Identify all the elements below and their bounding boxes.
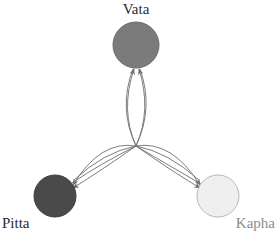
edge-vata-to-pitta xyxy=(73,69,136,188)
edge-vata-to-kapha xyxy=(136,69,200,188)
node-layer xyxy=(34,22,239,217)
edge-pitta-to-vata xyxy=(72,69,136,183)
node-kapha[interactable] xyxy=(197,175,239,217)
node-label-vata: Vata xyxy=(123,1,150,17)
node-label-pitta: Pitta xyxy=(2,215,30,231)
tridosha-diagram: Vata Pitta Kapha xyxy=(0,0,277,234)
node-vata[interactable] xyxy=(113,22,159,68)
edge-pitta-to-kapha xyxy=(74,145,200,185)
node-label-kapha: Kapha xyxy=(236,215,275,231)
edge-layer xyxy=(72,69,201,188)
edge-kapha-to-vata xyxy=(136,69,201,184)
diagram-canvas: Vata Pitta Kapha xyxy=(0,0,277,234)
node-pitta[interactable] xyxy=(34,175,76,217)
